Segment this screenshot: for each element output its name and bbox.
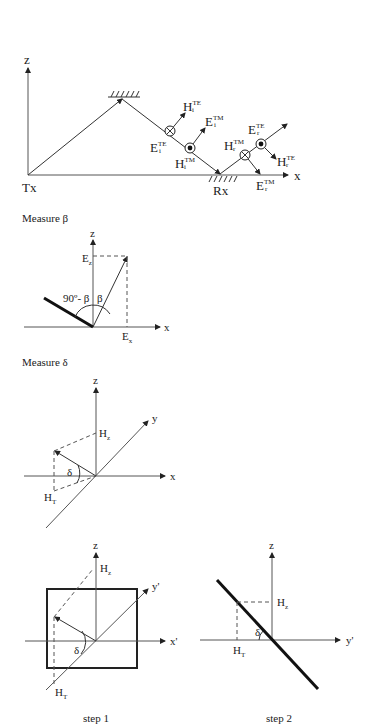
h-field-vector xyxy=(55,451,96,476)
h-field-vector xyxy=(55,617,96,641)
ray-geometry-diagram: z x Tx Rx xyxy=(22,52,301,198)
hi-te-sub: i xyxy=(192,106,194,114)
beta-angle-label: β xyxy=(97,292,103,304)
hz-projection xyxy=(54,433,96,451)
ht-label: HT xyxy=(44,491,57,506)
step1-caption: step 1 xyxy=(83,712,109,724)
y-prime-axis-label: y' xyxy=(152,580,160,592)
complement-angle-label: 90º- β xyxy=(63,292,90,304)
x-axis-label: x xyxy=(294,168,301,183)
measure-delta-title: Measure δ xyxy=(22,356,68,368)
tx-label: Tx xyxy=(22,180,37,195)
z-axis-label: z xyxy=(93,539,98,551)
step2-caption: step 2 xyxy=(266,712,292,724)
incident-ray-1 xyxy=(28,99,122,175)
polarization-line xyxy=(217,580,318,689)
er-tm-sub: r xyxy=(265,185,268,193)
into-page-cross-icon xyxy=(240,150,250,160)
rx-label: Rx xyxy=(213,183,229,198)
incident-ray-2 xyxy=(122,99,220,174)
y-prime-axis xyxy=(46,589,148,690)
y-axis xyxy=(46,421,148,528)
hz-label: Hz xyxy=(277,596,288,611)
ground-reflector-hatch-icon xyxy=(209,176,237,182)
z-axis-label: z xyxy=(90,227,95,239)
antenna-plane-square xyxy=(47,589,137,668)
delta-angle-label: δ xyxy=(67,466,72,478)
delta-angle-label: δ xyxy=(74,644,79,656)
y-axis-label: y xyxy=(152,412,158,424)
x-prime-axis-label: x' xyxy=(170,635,178,647)
ex-label: Ex xyxy=(122,330,133,345)
hz-label: Hz xyxy=(99,427,110,442)
z-axis-label: z xyxy=(93,374,98,386)
out-of-page-dot-icon xyxy=(256,139,266,149)
ht-label: HT xyxy=(233,644,246,659)
measure-beta-title: Measure β xyxy=(22,212,69,224)
x-axis-label: x xyxy=(170,470,176,482)
hz-projection xyxy=(54,569,93,617)
measure-delta-diagram: Measure δ z x y Hz HT δ xyxy=(22,356,176,528)
hi-tm-sub: i xyxy=(184,163,186,171)
z-axis-label: z xyxy=(269,539,274,551)
out-of-page-dot-icon xyxy=(185,143,195,153)
delta-angle-label: δ xyxy=(255,626,260,638)
hz-label: Hz xyxy=(100,562,111,577)
ei-te-sub: i xyxy=(159,147,161,155)
ez-label: Ez xyxy=(82,252,92,267)
measure-beta-diagram: Measure β z x Ez Ex 90º- β β xyxy=(22,212,170,345)
x-axis-label: x xyxy=(164,321,170,333)
er-te-sub: r xyxy=(257,129,260,137)
ht-label: HT xyxy=(55,686,68,701)
upper-reflector-hatch-icon xyxy=(108,91,140,97)
into-page-cross-icon xyxy=(165,126,175,136)
ei-tm-sub: i xyxy=(214,121,216,129)
y-prime-axis-label: y' xyxy=(346,634,354,646)
hr-tm-sub: r xyxy=(233,145,236,153)
polarization-diagram: z x Tx Rx xyxy=(0,0,384,726)
step2-diagram: z y' Hz HT δ step 2 xyxy=(200,539,354,724)
ht-projection xyxy=(54,476,96,491)
delta-arc xyxy=(77,465,80,483)
z-axis-label: z xyxy=(24,52,30,67)
hr-te-sub: r xyxy=(286,161,289,169)
step1-diagram: z x' y' Hz HT δ step 1 xyxy=(25,539,178,724)
